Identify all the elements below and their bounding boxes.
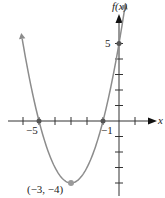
vertex-label: (−3, −4) (27, 184, 63, 195)
x-tick-label-neg1: −1 (101, 125, 113, 136)
vertex-point (68, 180, 74, 186)
root-point-neg5 (37, 119, 42, 124)
y-tick-label-5: 5 (105, 38, 111, 49)
x-axis-arrow-icon (148, 118, 157, 125)
curve-left-arrow-icon (19, 33, 25, 39)
x-tick-label-neg5: −5 (26, 125, 38, 136)
parabola-graph (0, 0, 165, 198)
x-axis-label: x (158, 115, 163, 126)
y-axis-arrow-icon (116, 14, 123, 23)
parabola-curve (22, 9, 124, 183)
y-intercept-point (117, 41, 122, 46)
y-axis-label: f(x) (112, 1, 127, 12)
root-point-neg1 (101, 119, 106, 124)
